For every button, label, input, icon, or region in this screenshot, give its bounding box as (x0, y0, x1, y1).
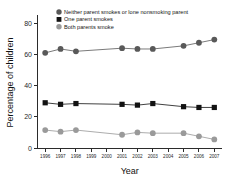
y-tick-label: 40 (24, 82, 32, 89)
line-chart-plot: 020406080 199619971998199920002001200220… (0, 0, 229, 186)
data-point-marker (196, 105, 201, 110)
data-point-marker (42, 50, 48, 56)
data-point-marker (150, 130, 156, 136)
legend-item-label: One parent smokes (64, 16, 113, 22)
data-point-marker (135, 46, 141, 52)
data-point-marker (73, 127, 79, 133)
legend-marker-circle (56, 9, 61, 14)
series-markers-group (42, 37, 217, 143)
chart-legend: Neither parent smokes or lone nonsmoking… (56, 9, 188, 30)
legend-item-label: Neither parent smokes or lone nonsmoking… (64, 9, 189, 15)
series-line-0 (45, 40, 214, 53)
data-point-marker (135, 103, 140, 108)
y-tick-label: 0 (28, 145, 32, 152)
data-point-marker (119, 45, 125, 51)
x-axis-ticks: 1996199719981999200020012002200320042005… (40, 148, 220, 159)
x-tick-label: 2007 (209, 154, 220, 159)
x-tick-label: 1999 (86, 154, 97, 159)
data-point-marker (196, 40, 202, 46)
legend-item-label: Both parents smoke (64, 24, 114, 30)
chart-container: 020406080 199619971998199920002001200220… (0, 0, 229, 186)
x-tick-label: 2004 (163, 154, 174, 159)
x-axis-title: Year (121, 166, 139, 176)
series-line-1 (45, 103, 214, 108)
data-point-marker (150, 101, 155, 106)
data-point-marker (212, 105, 217, 110)
y-tick-label: 60 (24, 51, 32, 58)
data-point-marker (58, 129, 64, 135)
x-tick-label: 2000 (102, 154, 113, 159)
x-tick-label: 2006 (194, 154, 205, 159)
legend-marker-square (57, 17, 62, 22)
x-tick-label: 1996 (40, 154, 51, 159)
legend-marker-circle (56, 24, 61, 29)
data-point-marker (73, 48, 79, 54)
data-point-marker (73, 101, 78, 106)
data-point-marker (58, 102, 63, 107)
data-point-marker (181, 104, 186, 109)
data-point-marker (135, 130, 141, 136)
y-tick-label: 80 (24, 20, 32, 27)
x-tick-label: 1998 (71, 154, 82, 159)
y-axis-title: Percentage of children (5, 37, 15, 127)
data-point-marker (196, 133, 202, 139)
data-point-marker (42, 127, 48, 133)
x-tick-label: 2001 (117, 154, 128, 159)
y-axis-ticks: 020406080 (24, 20, 37, 152)
series-lines-group (45, 40, 214, 140)
data-point-marker (150, 46, 156, 52)
data-point-marker (43, 100, 48, 105)
x-tick-label: 1997 (55, 154, 66, 159)
data-point-marker (211, 137, 217, 143)
data-point-marker (181, 43, 187, 49)
series-line-2 (45, 130, 214, 139)
x-tick-label: 2005 (178, 154, 189, 159)
y-tick-label: 20 (24, 113, 32, 120)
x-tick-label: 2002 (132, 154, 143, 159)
data-point-marker (181, 130, 187, 136)
data-point-marker (119, 102, 124, 107)
data-point-marker (211, 37, 217, 43)
x-tick-label: 2003 (148, 154, 159, 159)
data-point-marker (58, 46, 64, 52)
data-point-marker (119, 132, 125, 138)
